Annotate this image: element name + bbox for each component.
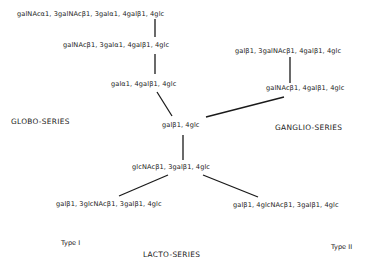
edges-layer [0, 0, 373, 265]
lacto-series-label: LACTO-SERIES [143, 251, 200, 258]
node-globo-mid: galNAcβ1, 3galα1, 4galβ1, 4glc [63, 42, 169, 49]
node-lacto-base: glcNAcβ1, 3galβ1, 4glc [132, 164, 210, 171]
node-ganglio-base: galNAcβ1, 4galβ1, 4glc [266, 85, 345, 92]
node-globo-top: galNAcα1, 3galNAcβ1, 3galα1, 4galβ1, 4gl… [17, 11, 164, 18]
node-lacto-type2: galβ1, 4glcNAcβ1, 3galβ1, 4glc [233, 202, 339, 209]
edge-lacto-base-to-type2 [203, 175, 258, 197]
node-lacto-type1: galβ1, 3glcNAcβ1, 3galβ1, 4glc [56, 201, 162, 208]
edge-globo-base-to-root [157, 92, 172, 116]
node-root: galβ1, 4glc [162, 122, 200, 129]
ganglio-series-label: GANGLIO-SERIES [275, 124, 342, 131]
type-1-label: Type I [61, 240, 80, 247]
type-2-label: Type II [331, 244, 352, 251]
globo-series-label: GLOBO-SERIES [11, 118, 70, 125]
node-globo-base: galα1, 4galβ1, 4glc [111, 81, 176, 88]
node-ganglio-top: galβ1, 3galNAcβ1, 4galβ1, 4glc [235, 48, 341, 55]
edge-lacto-base-to-type1 [119, 175, 168, 196]
edge-ganglio-base-to-root [206, 97, 284, 117]
